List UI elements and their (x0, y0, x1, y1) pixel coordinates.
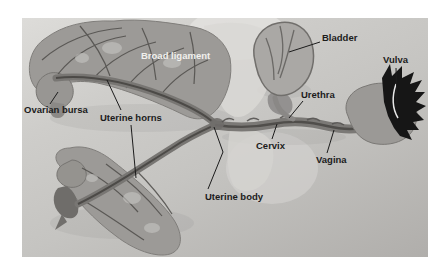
label-urethra: Urethra (301, 90, 335, 100)
label-vagina: Vagina (316, 155, 347, 165)
bladder-sac (254, 22, 314, 95)
label-ovarian-bursa: Ovarian bursa (24, 105, 88, 115)
specimen-photo: Broad ligament Bladder Vulva Ovarian bur… (22, 18, 428, 257)
specimen-illustration (22, 18, 428, 257)
leader-line-uterine-body (208, 127, 223, 189)
label-bladder: Bladder (322, 33, 357, 43)
textbook-figure-page: { "page": { "background": "#ffffff" }, "… (0, 0, 437, 269)
label-uterine-body: Uterine body (205, 192, 263, 202)
label-cervix: Cervix (256, 141, 285, 151)
horn-junction (210, 118, 224, 130)
label-vulva: Vulva (383, 55, 408, 65)
label-broad-ligament: Broad ligament (141, 51, 210, 61)
label-uterine-horns: Uterine horns (100, 113, 162, 123)
